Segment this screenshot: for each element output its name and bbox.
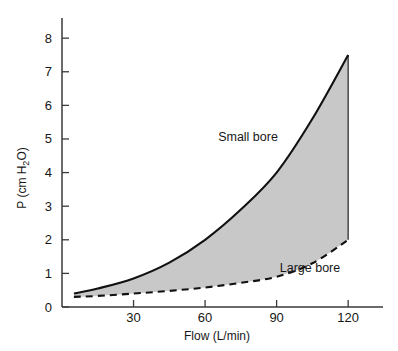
y-tick-label: 1 xyxy=(45,266,52,281)
x-tick-label: 60 xyxy=(198,310,212,325)
y-tick-label: 4 xyxy=(45,165,52,180)
y-axis-title-prefix: P (cm H xyxy=(15,166,29,209)
x-tick-label: 120 xyxy=(337,310,359,325)
y-tick-label: 0 xyxy=(45,300,52,315)
y-tick-label: 2 xyxy=(45,232,52,247)
x-tick-label: 30 xyxy=(126,310,140,325)
y-tick-label: 8 xyxy=(45,31,52,46)
series-annotation-small-bore: Small bore xyxy=(218,130,278,144)
svg-text:P (cm H2O): P (cm H2O) xyxy=(15,147,31,208)
x-tick-label: 90 xyxy=(269,310,283,325)
y-tick-label: 6 xyxy=(45,98,52,113)
series-annotation-large-bore: Large bore xyxy=(280,261,341,275)
y-tick-label: 5 xyxy=(45,131,52,146)
y-axis-title: P (cm H2O) xyxy=(15,147,31,208)
pressure-flow-chart: 012345678 306090120 Flow (L/min) P (cm H… xyxy=(0,0,398,351)
y-axis-title-suffix: O) xyxy=(15,147,29,160)
y-tick-label: 3 xyxy=(45,199,52,214)
y-tick-label: 7 xyxy=(45,64,52,79)
x-axis-title: Flow (L/min) xyxy=(184,329,250,343)
